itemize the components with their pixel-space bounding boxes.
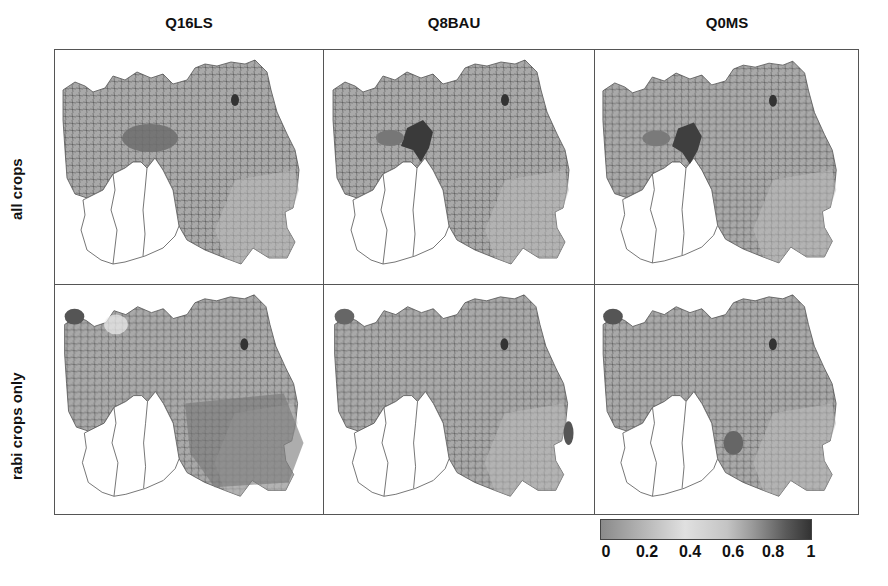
legend-tick: 1 xyxy=(807,543,816,561)
column-title-q0ms: Q0MS xyxy=(627,14,827,31)
row-title-all-crops: all crops xyxy=(8,158,25,220)
map-panel-rabi-q0ms xyxy=(595,285,860,516)
map-panel-rabi-q16ls xyxy=(55,285,323,516)
choropleth-map xyxy=(324,50,594,284)
legend-tick: 0.8 xyxy=(762,543,784,561)
colorbar-legend xyxy=(600,519,812,540)
legend-tick: 0.4 xyxy=(679,543,701,561)
map-panel-all-crops-q0ms xyxy=(595,50,860,284)
map-panel-all-crops-q8bau xyxy=(324,50,594,284)
choropleth-map xyxy=(595,285,860,516)
legend-tick: 0.2 xyxy=(636,543,658,561)
choropleth-map xyxy=(55,285,323,516)
choropleth-map xyxy=(55,50,323,284)
column-title-q16ls: Q16LS xyxy=(89,14,289,31)
choropleth-map xyxy=(595,50,860,284)
legend-tick: 0 xyxy=(602,543,611,561)
map-panel-rabi-q8bau xyxy=(324,285,594,516)
legend-tick: 0.6 xyxy=(722,543,744,561)
choropleth-map xyxy=(324,285,594,516)
column-title-q8bau: Q8BAU xyxy=(354,14,554,31)
row-title-rabi-crops-only: rabi crops only xyxy=(8,372,25,480)
map-grid xyxy=(54,49,859,515)
map-panel-all-crops-q16ls xyxy=(55,50,323,284)
